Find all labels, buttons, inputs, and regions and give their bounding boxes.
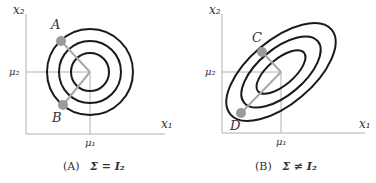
caption-b: (B) Σ ≠ I₂ xyxy=(255,160,317,173)
label-b: B xyxy=(51,110,62,125)
caption-b-tag: (B) xyxy=(255,160,272,173)
label-c: C xyxy=(252,30,262,45)
y-axis-label: x₂ xyxy=(209,3,221,17)
label-d: D xyxy=(229,118,241,133)
mu2-label: μ₂ xyxy=(9,66,20,77)
label-a: A xyxy=(50,17,60,32)
x-axis-label: x₁ xyxy=(359,117,371,131)
point-d xyxy=(236,108,246,118)
caption-a-tag: (A) xyxy=(63,160,80,173)
panel-a: A B x₂ x₁ μ₂ μ₁ xyxy=(9,3,173,148)
y-axis-label: x₂ xyxy=(13,3,25,17)
point-c xyxy=(257,47,267,57)
point-b xyxy=(58,100,68,110)
mu1-label: μ₁ xyxy=(276,136,287,147)
caption-a: (A) Σ = I₂ xyxy=(63,160,125,173)
point-a xyxy=(56,36,66,46)
caption-a-expr: Σ = I₂ xyxy=(90,160,125,173)
caption-b-expr: Σ ≠ I₂ xyxy=(282,160,317,173)
x-axis-label: x₁ xyxy=(161,117,173,131)
diagram-canvas: A B x₂ x₁ μ₂ μ₁ C D x₂ x₁ μ₂ μ₁ xyxy=(0,0,376,183)
mu2-label: μ₂ xyxy=(205,66,216,77)
mu1-label: μ₁ xyxy=(85,137,96,148)
panel-b: C D x₂ x₁ μ₂ μ₁ xyxy=(205,3,371,147)
